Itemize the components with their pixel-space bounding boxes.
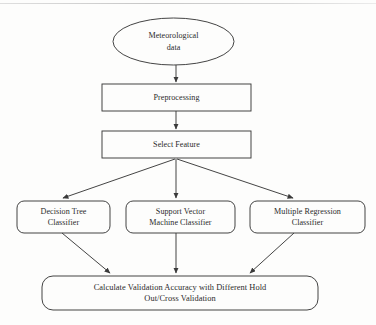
node-source-shape xyxy=(113,18,234,65)
edge-mreg-to-validate xyxy=(250,233,294,273)
flowchart-canvas: Meteorological data Preprocessing Select… xyxy=(0,0,376,325)
node-svm-shape xyxy=(126,201,235,233)
edge-dtree-to-validate xyxy=(62,233,110,273)
node-mreg-shape xyxy=(250,201,365,233)
flowchart-graphics xyxy=(0,0,376,325)
edge-select-to-mreg xyxy=(177,159,293,198)
edge-select-to-dtree xyxy=(63,159,175,198)
node-preprocess-shape xyxy=(102,84,251,111)
node-dtree-shape xyxy=(17,201,110,233)
node-validate-shape xyxy=(42,276,318,310)
node-select-shape xyxy=(102,131,251,158)
